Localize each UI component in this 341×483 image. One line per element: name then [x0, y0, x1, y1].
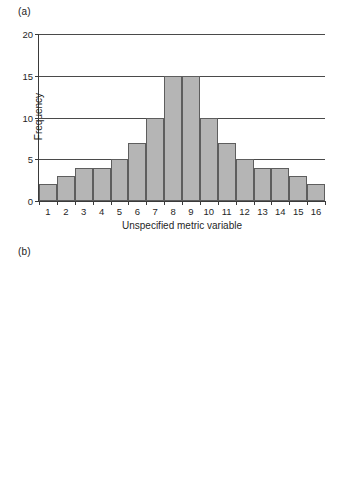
y-tick-label: 15	[22, 70, 33, 81]
x-tick-label: 14	[271, 206, 289, 217]
x-tick	[39, 201, 40, 205]
y-tick	[35, 34, 39, 35]
y-tick	[35, 76, 39, 77]
x-tick-label: 1	[39, 206, 57, 217]
y-tick-label: 10	[22, 112, 33, 123]
x-tick	[289, 201, 290, 205]
x-tick-label: 15	[289, 206, 307, 217]
x-tick	[164, 201, 165, 205]
panel-a-x-axis-title: Unspecified metric variable	[39, 220, 325, 231]
x-tick-label: 9	[182, 206, 200, 217]
panel-a-y-ticks: 05101520	[39, 34, 325, 201]
x-tick	[218, 201, 219, 205]
y-tick-label: 5	[28, 154, 33, 165]
x-tick-label: 7	[146, 206, 164, 217]
x-tick	[200, 201, 201, 205]
x-tick	[182, 201, 183, 205]
panel-a-x-tick-labels: 12345678910111213141516	[39, 206, 325, 217]
x-tick-label: 10	[200, 206, 218, 217]
y-tick	[35, 118, 39, 119]
x-tick	[254, 201, 255, 205]
panel-b-label: (b)	[18, 246, 31, 257]
x-tick	[75, 201, 76, 205]
y-tick-label: 0	[28, 196, 33, 207]
x-tick	[57, 201, 58, 205]
histogram-figure: (a) Frequency 05101520 12345678910111213…	[0, 0, 341, 483]
x-tick-label: 16	[307, 206, 325, 217]
panel-a: (a) Frequency 05101520 12345678910111213…	[0, 0, 341, 245]
x-tick-label: 8	[164, 206, 182, 217]
x-tick	[93, 201, 94, 205]
panel-b: (b) Frequency 05101520 12345678910111213…	[0, 240, 341, 483]
x-tick	[236, 201, 237, 205]
x-tick	[271, 201, 272, 205]
y-tick-label: 20	[22, 29, 33, 40]
x-tick	[146, 201, 147, 205]
x-tick-label: 2	[57, 206, 75, 217]
x-tick	[111, 201, 112, 205]
x-tick-label: 12	[236, 206, 254, 217]
x-tick-label: 4	[93, 206, 111, 217]
x-tick	[325, 201, 326, 205]
x-tick-label: 3	[75, 206, 93, 217]
x-tick-label: 6	[128, 206, 146, 217]
x-tick-label: 13	[254, 206, 272, 217]
x-tick	[307, 201, 308, 205]
panel-a-label: (a)	[18, 6, 31, 17]
x-tick-label: 11	[218, 206, 236, 217]
x-tick-label: 5	[111, 206, 129, 217]
panel-a-plot-area: Frequency 05101520 123456789101112131415…	[38, 34, 325, 202]
x-tick	[128, 201, 129, 205]
y-tick	[35, 159, 39, 160]
